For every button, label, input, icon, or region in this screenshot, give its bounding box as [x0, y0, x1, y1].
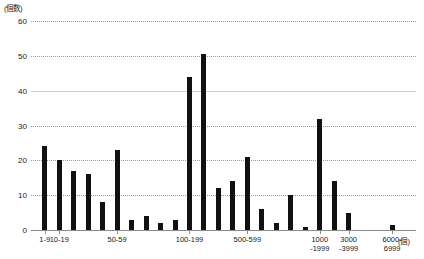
x-axis-tick-label: 100-199	[176, 235, 204, 244]
bar	[173, 220, 178, 230]
bar	[274, 223, 279, 230]
bar	[317, 119, 322, 230]
x-axis-tick-label: 10-19	[50, 235, 69, 244]
gridline	[31, 126, 416, 127]
x-axis-tickmark	[247, 230, 248, 234]
y-axis-tick-label: 60	[18, 17, 27, 26]
x-axis-tick-label: 1-9	[39, 235, 50, 244]
bar	[86, 174, 91, 230]
x-axis-tick-label: 50-59	[108, 235, 127, 244]
x-axis-tickmark	[392, 230, 393, 234]
bar	[158, 223, 163, 230]
y-axis-tick-label: 10	[18, 191, 27, 200]
bar	[201, 54, 206, 230]
bar	[259, 209, 264, 230]
y-axis-tick-label: 40	[18, 86, 27, 95]
x-axis-line	[31, 230, 416, 231]
bar	[230, 181, 235, 230]
x-axis-tickmark	[189, 230, 190, 234]
bar-chart: (個数) 0102030405060 1-910-1950-59100-1995…	[0, 0, 424, 259]
x-axis-tickmark	[45, 230, 46, 234]
bar	[144, 216, 149, 230]
bar	[332, 181, 337, 230]
x-axis-tick-label: 1000 -1999	[310, 235, 329, 253]
gridline	[31, 91, 416, 92]
bar	[187, 77, 192, 230]
bar	[115, 150, 120, 230]
gridline	[31, 21, 416, 22]
plot-area: 0102030405060 1-910-1950-59100-199500-59…	[31, 21, 416, 230]
x-axis-tick-label: 3000 -3999	[339, 235, 358, 253]
x-axis-unit-label: (個)	[398, 235, 410, 246]
x-axis-tickmark	[59, 230, 60, 234]
bar	[71, 171, 76, 230]
bar	[245, 157, 250, 230]
x-axis-tickmark	[349, 230, 350, 234]
gridline	[31, 160, 416, 161]
gridline	[31, 56, 416, 57]
y-axis-tick-label: 20	[18, 156, 27, 165]
bar	[346, 213, 351, 230]
y-axis-tick-label: 30	[18, 121, 27, 130]
y-axis-tick-label: 50	[18, 51, 27, 60]
bar	[288, 195, 293, 230]
bar	[57, 160, 62, 230]
x-axis-tickmark	[117, 230, 118, 234]
y-axis-tick-label: 0	[23, 226, 27, 235]
x-axis-tickmark	[320, 230, 321, 234]
x-axis-tick-label: 500-599	[234, 235, 262, 244]
bar	[42, 146, 47, 230]
y-axis-unit-label: (個数)	[4, 2, 22, 13]
bar	[100, 202, 105, 230]
bar	[216, 188, 221, 230]
bar	[129, 220, 134, 230]
